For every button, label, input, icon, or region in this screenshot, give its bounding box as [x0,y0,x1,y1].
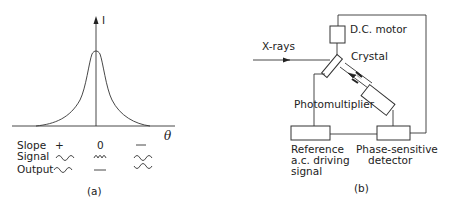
signal-wave-center-icon [94,156,106,159]
figure: I θ Slope + 0 Signal Output (a) D.C. mot… [0,0,451,207]
output-wave-right-icon [134,164,152,169]
panel-a-table: Slope + 0 Signal Output (a) [17,139,152,197]
theta-axis-label: θ [164,129,172,143]
dc-motor-box [330,26,345,43]
row-label-output: Output [17,163,53,175]
row-label-signal: Signal [17,150,49,162]
signal-wave-left-icon [56,156,74,161]
output-wave-left-icon [54,168,72,173]
psd-box [377,126,410,140]
intensity-axis-label: I [102,14,105,26]
slope-positive: + [55,139,64,151]
signal-wave-right-icon [134,156,152,161]
caption-a: (a) [87,185,102,197]
psd-label-2: detector [368,154,413,166]
crystal-label: Crystal [351,50,388,62]
dc-motor-label: D.C. motor [350,23,408,35]
reference-box [291,126,330,140]
caption-b: (b) [354,182,369,194]
panel-a-plot: I θ [12,14,175,143]
xrays-label: X-rays [262,40,295,52]
rocking-curve [36,51,150,126]
slope-zero: 0 [97,139,104,151]
beam-arrow-icon [348,73,356,78]
photomultiplier-label: Photomultiplier [294,98,375,110]
panel-b-apparatus: D.C. motor X-rays Crystal Photomultiplie… [253,15,438,194]
reference-label-3: signal [291,165,322,177]
intensity-axis-arrow-icon [94,16,99,24]
